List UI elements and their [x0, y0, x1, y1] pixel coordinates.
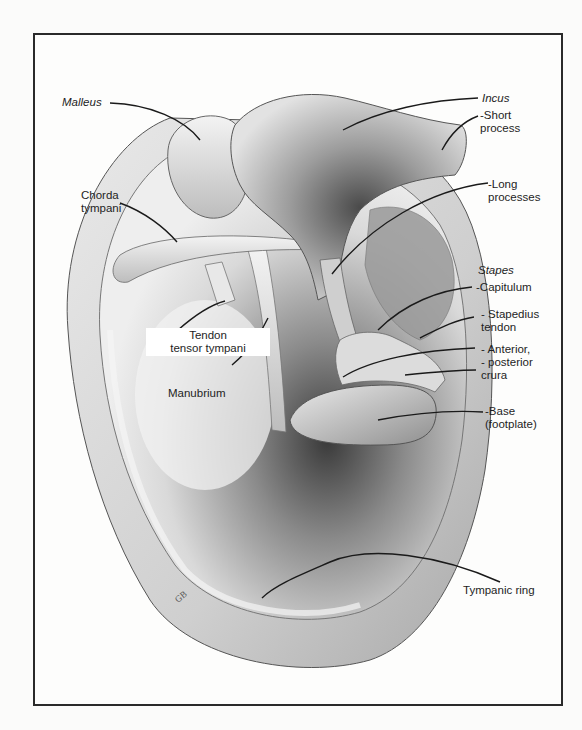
label-malleus-text: Malleus: [62, 96, 102, 109]
label-line: process: [480, 122, 520, 135]
label-line: processes: [488, 191, 540, 204]
label-incus: Incus: [482, 92, 510, 105]
label-line: crura: [481, 369, 533, 382]
label-anterior-posterior-crura: - Anterior, - posterior crura: [481, 343, 533, 382]
label-line: Manubrium: [168, 387, 226, 400]
label-line: - Anterior,: [481, 343, 533, 356]
label-manubrium: Manubrium: [168, 387, 226, 400]
label-capitulum: -Capitulum: [476, 281, 532, 294]
label-stapes: Stapes: [478, 264, 514, 277]
label-stapedius-tendon: - Stapedius tendon: [481, 308, 539, 334]
label-tympanic-ring: Tympanic ring: [463, 584, 535, 597]
label-line: Stapes: [478, 264, 514, 277]
label-line: Tendon: [152, 329, 264, 342]
label-line: -Long: [488, 178, 540, 191]
label-line: (footplate): [485, 418, 537, 431]
label-line: tensor tympani: [152, 342, 264, 355]
label-line: Tympanic ring: [463, 584, 535, 597]
label-line: - Stapedius: [481, 308, 539, 321]
label-line: -Capitulum: [476, 281, 532, 294]
label-chorda-tympani: Chorda tympani: [81, 189, 121, 215]
label-short-process: -Short process: [480, 109, 520, 135]
label-line: -Base: [485, 405, 537, 418]
label-line: tendon: [481, 321, 539, 334]
label-line: tympani: [81, 202, 121, 215]
label-line: -Short: [480, 109, 520, 122]
label-tendon-tensor-tympani: Tendon tensor tympani: [146, 328, 270, 356]
label-base-footplate: -Base (footplate): [485, 405, 537, 431]
label-malleus: Malleus: [62, 96, 102, 109]
label-line: - posterior: [481, 356, 533, 369]
label-line: Chorda: [81, 189, 121, 202]
label-line: Incus: [482, 92, 510, 105]
label-long-processes: -Long processes: [488, 178, 540, 204]
